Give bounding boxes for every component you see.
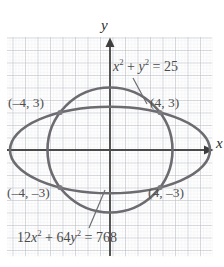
intersection-point <box>57 185 62 190</box>
circle-eq-rhs: = 25 <box>149 59 178 74</box>
ellipse-eq-coef2: 64 <box>56 230 70 245</box>
y-axis-label: y <box>101 18 108 33</box>
circle-equation-label: x2 + y2 = 25 <box>113 60 178 74</box>
x-axis-label: x <box>216 136 223 151</box>
ellipse-eq-plus: + <box>42 230 57 245</box>
intersection-point <box>57 110 62 115</box>
grid-clip-mask-right <box>213 0 224 267</box>
point-label-top-right: (4, 3) <box>150 96 179 110</box>
circle-eq-plus: + <box>124 59 139 74</box>
ellipse-eq-rhs: = 768 <box>81 230 117 245</box>
grid-area <box>0 0 213 257</box>
ellipse-equation-label: 12x2 + 64y2 = 768 <box>17 231 117 245</box>
grid-clip-mask-bottom <box>0 257 223 267</box>
point-label-bottom-left: (–4, –3) <box>7 186 50 200</box>
grid-clip-mask-top <box>0 0 223 37</box>
math-graph-figure <box>0 0 223 267</box>
ellipse-eq-coef1: 12 <box>17 230 31 245</box>
grid <box>0 0 223 267</box>
point-label-top-left: (–4, 3) <box>8 96 44 110</box>
point-label-bottom-right: (4, –3) <box>148 186 184 200</box>
grid-clip-mask-left <box>0 0 7 267</box>
intersection-point <box>157 110 162 115</box>
